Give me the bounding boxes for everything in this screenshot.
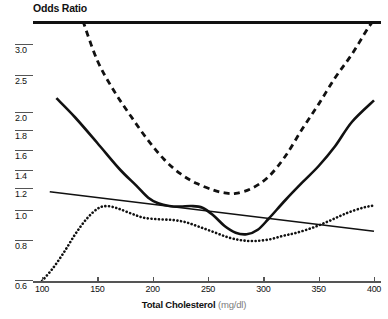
x-tick-mark-300: [263, 277, 264, 282]
series-dashed-curve: [83, 21, 374, 194]
y-tick-label: 1.8: [15, 131, 27, 141]
x-tick-mark-100: [42, 277, 43, 282]
x-tick-mark-350: [319, 277, 320, 282]
y-tick-0-6: 0.6: [0, 280, 33, 294]
series-canvas: [33, 21, 381, 281]
y-tick-2-0: 2.0: [0, 112, 33, 126]
chart-title: Odds Ratio: [33, 2, 87, 14]
plot-area: [33, 21, 381, 281]
y-tick-3-0: 3.0: [0, 44, 33, 58]
x-tick-label-400: 400: [367, 284, 381, 294]
series-trend-line: [50, 192, 374, 232]
y-tick-1-2: 1.2: [0, 188, 33, 202]
y-tick-1-8: 1.8: [0, 130, 33, 144]
y-tick-label: 1.4: [15, 171, 27, 181]
y-tick-0-8: 0.8: [0, 240, 33, 254]
y-tick-1-0: 1.0: [0, 210, 33, 224]
y-tick-label: 0.8: [15, 241, 27, 251]
x-tick-label-250: 250: [201, 284, 215, 294]
x-tick-label-350: 350: [312, 284, 326, 294]
y-tick-label: 1.6: [15, 151, 27, 161]
series-dotted-curve: [42, 206, 374, 282]
x-tick-label-150: 150: [90, 284, 104, 294]
x-tick-mark-400: [374, 277, 375, 282]
y-tick-label: 1.2: [15, 189, 27, 199]
y-tick-1-6: 1.6: [0, 150, 33, 164]
y-tick-label: 3.0: [15, 45, 27, 55]
series-solid-curve: [56, 98, 374, 234]
x-axis-title-unit: (mg/dl): [218, 299, 246, 310]
x-tick-mark-250: [208, 277, 209, 282]
x-tick-label-100: 100: [35, 284, 49, 294]
y-tick-2-5: 2.5: [0, 75, 33, 89]
y-tick-1-4: 1.4: [0, 170, 33, 184]
y-tick-label: 2.0: [15, 113, 27, 123]
x-tick-label-200: 200: [146, 284, 160, 294]
x-axis-title-main: Total Cholesterol: [142, 299, 216, 310]
x-tick-label-300: 300: [256, 284, 270, 294]
y-tick-label: 1.0: [15, 211, 27, 221]
y-tick-label: 0.6: [15, 281, 27, 291]
x-axis-line: [33, 281, 381, 283]
x-tick-mark-200: [153, 277, 154, 282]
x-tick-mark-150: [97, 277, 98, 282]
x-axis-title: Total Cholesterol (mg/dl): [0, 299, 388, 310]
y-tick-label: 2.5: [15, 76, 27, 86]
odds-ratio-chart: Odds Ratio 3.02.52.01.81.61.41.21.00.80.…: [0, 0, 388, 319]
